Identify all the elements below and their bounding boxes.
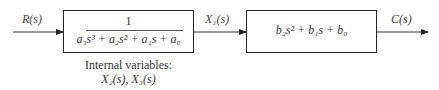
intermediate-signal-label: X₁(s) xyxy=(205,12,229,27)
block2-expression: b₂s² + b₁s + b₀ xyxy=(247,23,376,38)
input-signal-label: R(s) xyxy=(22,12,42,27)
internal-variables-note: Internal variables: X₂(s), X₃(s) xyxy=(63,58,194,86)
note-line2: X₂(s), X₃(s) xyxy=(63,72,194,86)
fraction-bar xyxy=(86,30,183,31)
transfer-block-numerator: b₂s² + b₁s + b₀ xyxy=(246,10,377,53)
transfer-block-denominator: 1 a₃s³ + a₂s² + a₁s + a₀ xyxy=(63,10,194,53)
block1-denominator: a₃s³ + a₂s² + a₁s + a₀ xyxy=(64,32,193,47)
output-signal-label: C(s) xyxy=(391,12,412,27)
note-line1: Internal variables: xyxy=(63,58,194,72)
block1-numerator: 1 xyxy=(64,14,193,29)
